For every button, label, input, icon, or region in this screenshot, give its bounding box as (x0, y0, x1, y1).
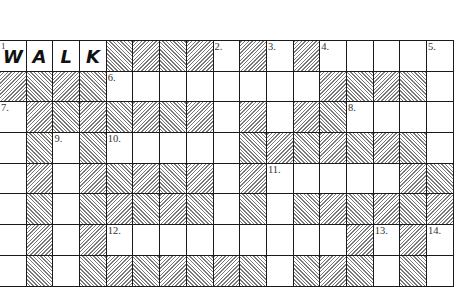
answer-cell[interactable] (133, 225, 160, 256)
answer-cell[interactable] (187, 133, 214, 164)
answer-cell[interactable]: 14. (427, 225, 454, 256)
clue-number: 4. (321, 41, 329, 52)
blocked-cell (400, 256, 427, 287)
answer-cell[interactable] (294, 225, 321, 256)
answer-cell[interactable] (267, 225, 294, 256)
blocked-cell (107, 256, 134, 287)
answer-cell[interactable] (133, 133, 160, 164)
answer-cell[interactable] (427, 72, 454, 103)
answer-cell[interactable]: 2. (214, 41, 241, 72)
answer-cell[interactable] (267, 194, 294, 225)
answer-cell[interactable]: 8. (347, 102, 374, 133)
clue-number: 7. (1, 102, 9, 113)
answer-cell[interactable] (214, 72, 241, 103)
answer-cell[interactable] (53, 225, 80, 256)
answer-cell[interactable] (267, 256, 294, 287)
blocked-cell (347, 133, 374, 164)
answer-cell[interactable] (0, 164, 27, 195)
answer-cell[interactable] (160, 225, 187, 256)
answer-cell[interactable] (0, 256, 27, 287)
answer-cell[interactable]: L (53, 41, 80, 72)
answer-cell[interactable] (214, 225, 241, 256)
blocked-cell (374, 133, 401, 164)
blocked-cell (214, 256, 241, 287)
answer-cell[interactable] (240, 225, 267, 256)
answer-cell[interactable]: 10. (107, 133, 134, 164)
answer-cell[interactable] (400, 102, 427, 133)
blocked-cell (427, 164, 454, 195)
answer-cell[interactable]: 6. (107, 72, 134, 103)
blocked-cell (240, 41, 267, 72)
blocked-cell (187, 41, 214, 72)
answer-cell[interactable] (427, 256, 454, 287)
answer-cell[interactable] (0, 133, 27, 164)
clue-number: 12. (108, 225, 121, 236)
blocked-cell (80, 133, 107, 164)
blocked-cell (107, 41, 134, 72)
answer-cell[interactable] (400, 41, 427, 72)
answer-cell[interactable] (320, 225, 347, 256)
answer-cell[interactable] (374, 41, 401, 72)
answer-cell[interactable] (214, 133, 241, 164)
answer-cell[interactable] (0, 194, 27, 225)
answer-cell[interactable]: K (80, 41, 107, 72)
answer-cell[interactable] (347, 41, 374, 72)
answer-cell[interactable] (427, 102, 454, 133)
answer-cell[interactable] (160, 133, 187, 164)
blocked-cell (160, 194, 187, 225)
blocked-cell (400, 194, 427, 225)
answer-cell[interactable] (374, 102, 401, 133)
answer-cell[interactable]: 13. (374, 225, 401, 256)
blocked-cell (400, 164, 427, 195)
answer-cell[interactable]: 9. (53, 133, 80, 164)
blocked-cell (53, 102, 80, 133)
answer-cell[interactable] (0, 225, 27, 256)
answer-cell[interactable] (374, 256, 401, 287)
answer-cell[interactable]: 5. (427, 41, 454, 72)
answer-cell[interactable] (294, 72, 321, 103)
answer-cell[interactable] (214, 102, 241, 133)
clue-number: 2. (215, 41, 223, 52)
blocked-cell (347, 256, 374, 287)
answer-cell[interactable] (294, 164, 321, 195)
answer-cell[interactable] (240, 72, 267, 103)
answer-cell[interactable]: 12. (107, 225, 134, 256)
answer-cell[interactable] (214, 194, 241, 225)
clue-number: 13. (375, 225, 388, 236)
answer-cell[interactable] (427, 133, 454, 164)
answer-cell[interactable] (53, 194, 80, 225)
blocked-cell (320, 133, 347, 164)
answer-cell[interactable]: 3. (267, 41, 294, 72)
answer-cell[interactable] (133, 72, 160, 103)
blocked-cell (240, 194, 267, 225)
answer-cell[interactable]: A (27, 41, 54, 72)
entered-letter: A (27, 46, 53, 68)
blocked-cell (160, 256, 187, 287)
answer-cell[interactable] (160, 72, 187, 103)
answer-cell[interactable]: 1W (0, 41, 27, 72)
answer-cell[interactable]: 7. (0, 102, 27, 133)
blocked-cell (374, 72, 401, 103)
blocked-cell (267, 133, 294, 164)
answer-cell[interactable] (53, 256, 80, 287)
answer-cell[interactable] (53, 164, 80, 195)
answer-cell[interactable] (320, 164, 347, 195)
blocked-cell (27, 256, 54, 287)
blocked-cell (27, 225, 54, 256)
answer-cell[interactable]: 4. (320, 41, 347, 72)
blocked-cell (80, 72, 107, 103)
blocked-cell (160, 41, 187, 72)
clue-number: 6. (108, 72, 116, 83)
answer-cell[interactable] (214, 164, 241, 195)
clue-number: 10. (108, 133, 121, 144)
answer-cell[interactable] (187, 225, 214, 256)
answer-cell[interactable] (374, 164, 401, 195)
blocked-cell (27, 164, 54, 195)
blocked-cell (80, 194, 107, 225)
answer-cell[interactable] (267, 102, 294, 133)
answer-cell[interactable] (187, 72, 214, 103)
answer-cell[interactable]: 11. (267, 164, 294, 195)
answer-cell[interactable] (347, 164, 374, 195)
answer-cell[interactable] (267, 72, 294, 103)
blocked-cell (320, 194, 347, 225)
